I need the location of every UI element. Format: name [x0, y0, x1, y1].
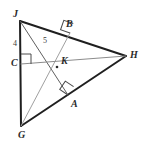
vertex-label-J: J [13, 9, 18, 19]
segment-altitude-GB [21, 33, 70, 126]
segment-side-JH [20, 21, 126, 56]
point-label-C: C [11, 58, 18, 68]
point-label-A: A [71, 99, 78, 109]
point-label-K: K [61, 56, 68, 66]
measure-label-JC: 4 [13, 40, 17, 48]
orthocenter-point-K [56, 66, 59, 69]
segment-side-GH [21, 56, 126, 126]
vertex-label-H: H [130, 50, 138, 60]
point-label-B: B [66, 19, 73, 29]
right-angle-mark-C [21, 54, 31, 64]
segment-altitude-HC [21, 56, 126, 64]
vertex-label-G: G [18, 130, 25, 140]
segment-side-JG [20, 21, 21, 126]
measure-label-JK: 5 [43, 37, 47, 45]
geometry-diagram: J G H B A C K 4 5 [0, 0, 142, 143]
